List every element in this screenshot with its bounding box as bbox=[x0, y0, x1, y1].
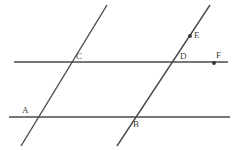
point-label-a: A bbox=[22, 106, 29, 115]
right-transversal-line bbox=[117, 5, 210, 146]
point-label-e: E bbox=[194, 31, 200, 40]
point-label-f: F bbox=[216, 51, 221, 60]
point-label-b: B bbox=[133, 120, 139, 129]
point-marker-f bbox=[212, 61, 216, 65]
point-label-c: C bbox=[76, 52, 82, 61]
point-label-d: D bbox=[180, 52, 187, 61]
geometry-figure-canvas: A B C D E F bbox=[0, 0, 238, 150]
left-transversal-line bbox=[21, 5, 107, 146]
point-marker-e bbox=[188, 34, 192, 38]
geometry-figure-svg bbox=[0, 0, 238, 150]
